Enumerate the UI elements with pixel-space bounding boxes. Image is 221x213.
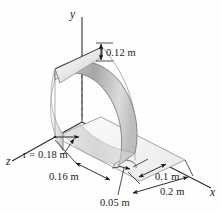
notch-dimension-label: 0.05 m bbox=[100, 197, 130, 208]
length-dimension-label: 0.2 m bbox=[160, 186, 184, 197]
depth-dimension-label: 0.16 m bbox=[49, 171, 79, 182]
curved-shell-surface bbox=[51, 47, 137, 165]
origin-marks bbox=[54, 136, 56, 138]
radius-dimension-label: r = 0.18 m bbox=[23, 149, 68, 160]
engineering-figure: y x z 0.12 m r = 0.18 m 0.16 bbox=[0, 0, 221, 213]
z-axis-label: z bbox=[5, 155, 11, 167]
depth-dim-line bbox=[76, 163, 110, 180]
offset-ext-right bbox=[185, 160, 193, 176]
height-dimension-label: 0.12 m bbox=[106, 47, 136, 58]
figure-canvas: y x z 0.12 m r = 0.18 m 0.16 bbox=[0, 0, 221, 213]
y-axis-label: y bbox=[69, 8, 76, 21]
notch-leader bbox=[118, 168, 124, 195]
origin-point bbox=[54, 136, 56, 138]
x-axis-label: x bbox=[209, 186, 216, 198]
